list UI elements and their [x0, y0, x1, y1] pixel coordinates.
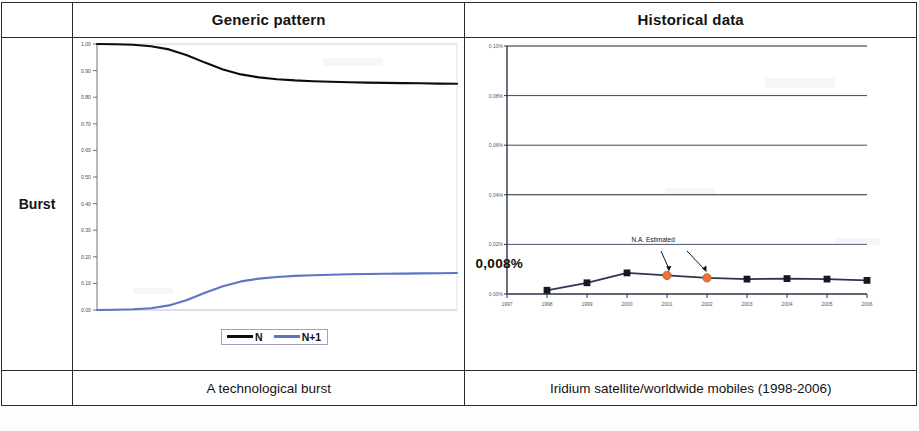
- caption-cell-right: Iridium satellite/worldwide mobiles (199…: [465, 371, 917, 406]
- header-cell-historical-data: Historical data: [465, 3, 917, 38]
- caption-label-left: A technological burst: [206, 381, 331, 396]
- svg-text:0.50: 0.50: [81, 174, 91, 180]
- svg-text:0.80: 0.80: [81, 94, 91, 100]
- table-caption-row: A technological burst Iridium satellite/…: [2, 371, 917, 406]
- svg-text:1998: 1998: [542, 301, 553, 307]
- legend-item-n1: N+1: [274, 332, 322, 343]
- svg-text:2004: 2004: [782, 301, 793, 307]
- annotation-na-estimated: N.A. Estimated: [631, 236, 674, 243]
- svg-text:1999: 1999: [582, 301, 593, 307]
- svg-text:0,00%: 0,00%: [489, 290, 504, 296]
- svg-text:0,10%: 0,10%: [489, 43, 504, 49]
- svg-text:2001: 2001: [662, 301, 673, 307]
- legend-item-n: N: [227, 332, 263, 343]
- legend-swatch-n1-icon: [274, 335, 300, 338]
- header-cell-generic-pattern: Generic pattern: [73, 3, 465, 38]
- svg-text:0.30: 0.30: [81, 227, 91, 233]
- legend-label-n: N: [255, 332, 263, 343]
- svg-text:1.00: 1.00: [81, 41, 91, 47]
- svg-text:0.40: 0.40: [81, 200, 91, 206]
- svg-text:2002: 2002: [702, 301, 713, 307]
- svg-text:0.10: 0.10: [81, 280, 91, 286]
- svg-text:0.20: 0.20: [81, 253, 91, 259]
- x-axis-ticks: 1997 1998 1999 2000 2001 2002: [502, 294, 873, 307]
- cell-historical-data-chart: 0,10% 0,08% 0,06% 0,04% 0,02% 0,00%: [465, 37, 917, 371]
- row-label-burst: Burst: [2, 196, 72, 212]
- svg-text:2006: 2006: [862, 301, 873, 307]
- cell-generic-pattern-chart: 1.00 0.90 0.80 0.70 0.60 0.50: [73, 37, 465, 371]
- svg-text:0,08%: 0,08%: [489, 92, 504, 98]
- generic-pattern-legend: N N+1: [221, 329, 328, 346]
- historical-data-plot: 0,10% 0,08% 0,06% 0,04% 0,02% 0,00%: [465, 38, 914, 354]
- y-axis-ticks: 1.00 0.90 0.80 0.70 0.60 0.50: [81, 41, 97, 313]
- caption-label-right: Iridium satellite/worldwide mobiles (199…: [550, 381, 831, 396]
- screenshot-page: Generic pattern Historical data Burst: [0, 0, 919, 431]
- header-label-historical-data: Historical data: [638, 11, 744, 28]
- svg-text:0.90: 0.90: [81, 67, 91, 73]
- caption-cell-left: A technological burst: [73, 371, 465, 406]
- svg-text:0,06%: 0,06%: [489, 142, 504, 148]
- generic-pattern-chart: 1.00 0.90 0.80 0.70 0.60 0.50: [73, 38, 464, 371]
- svg-text:0.70: 0.70: [81, 120, 91, 126]
- historical-data-chart: 0,10% 0,08% 0,06% 0,04% 0,02% 0,00%: [465, 38, 916, 371]
- svg-text:0,02%: 0,02%: [489, 241, 504, 247]
- generic-pattern-plot: 1.00 0.90 0.80 0.70 0.60 0.50: [73, 38, 464, 354]
- svg-text:2005: 2005: [822, 301, 833, 307]
- svg-text:0,04%: 0,04%: [489, 191, 504, 197]
- svg-text:1997: 1997: [502, 301, 513, 307]
- legend-label-n1: N+1: [302, 332, 322, 343]
- table-chart-row: Burst: [2, 37, 917, 371]
- svg-text:2000: 2000: [622, 301, 633, 307]
- svg-text:0.60: 0.60: [81, 147, 91, 153]
- svg-text:2003: 2003: [742, 301, 753, 307]
- axis-callout-value: 0,008%: [475, 256, 523, 271]
- header-blank-cell: [2, 3, 73, 38]
- plot-background: [507, 46, 867, 294]
- header-label-generic-pattern: Generic pattern: [212, 11, 326, 28]
- comparison-table: Generic pattern Historical data Burst: [1, 2, 917, 406]
- svg-text:0.00: 0.00: [81, 306, 91, 312]
- row-label-cell-burst: Burst: [2, 37, 73, 371]
- legend-swatch-n-icon: [227, 335, 253, 338]
- table-header-row: Generic pattern Historical data: [2, 3, 917, 38]
- caption-blank-cell: [2, 371, 73, 406]
